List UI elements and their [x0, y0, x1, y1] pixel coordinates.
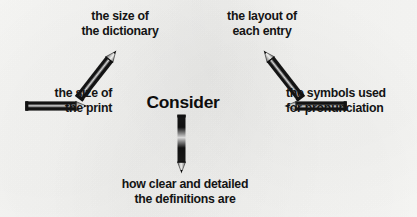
branch-label-right-line2: for pronunciation [286, 101, 417, 116]
branch-label-top-right-line2: each entry [204, 24, 320, 39]
branch-label-bottom-line2: the definitions are [94, 192, 276, 207]
branch-label-bottom: how clear and detailed the definitions a… [94, 177, 276, 206]
branch-label-bottom-line1: how clear and detailed [94, 177, 276, 192]
branch-label-right: the symbols used for pronunciation [286, 86, 417, 115]
center-node: Consider [130, 92, 236, 113]
branch-label-right-line1: the symbols used [286, 86, 417, 101]
diagram-canvas: Consider the size of the dictionary the … [0, 0, 417, 217]
branch-label-top-right-line1: the layout of [204, 9, 320, 24]
branch-label-top-left-line2: the dictionary [62, 24, 178, 39]
branch-label-top-right: the layout of each entry [204, 9, 320, 38]
pencil-arrow-bottom [177, 115, 185, 174]
center-node-label: Consider [147, 92, 220, 112]
branch-label-top-left-line1: the size of [62, 9, 178, 24]
branch-label-left: the size of the print [6, 86, 112, 115]
branch-label-left-line1: the size of [6, 86, 112, 101]
branch-label-top-left: the size of the dictionary [62, 9, 178, 38]
branch-label-left-line2: the print [6, 101, 112, 116]
